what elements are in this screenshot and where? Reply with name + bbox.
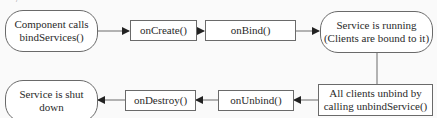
node-label-line: down (19, 101, 83, 114)
node-onbind: onBind() (205, 20, 296, 41)
node-label-line: bindServices() (14, 31, 88, 44)
node-label: onDestroy() (134, 94, 187, 107)
node-label-line: Service is running (324, 19, 429, 32)
node-label-line: calling unbindService() (324, 100, 428, 113)
node-all-clients-unbind: All clients unbind by calling unbindServ… (318, 84, 433, 116)
node-label-line: All clients unbind by (324, 87, 428, 100)
node-service-shut-down: Service is shut down (5, 80, 98, 118)
node-onunbind: onUnbind() (218, 90, 294, 111)
node-label: onUnbind() (230, 94, 281, 107)
node-component-calls-bindservices: Component calls bindServices() (5, 10, 98, 52)
node-label-line: (Clients are bound to it) (324, 32, 429, 45)
node-label-line: Service is shut (19, 88, 83, 101)
node-oncreate: onCreate() (130, 20, 197, 41)
node-label: onBind() (231, 24, 271, 37)
node-label: onCreate() (140, 24, 187, 37)
node-ondestroy: onDestroy() (125, 90, 196, 111)
node-service-running: Service is running (Clients are bound to… (320, 11, 433, 53)
node-label-line: Component calls (14, 18, 88, 31)
